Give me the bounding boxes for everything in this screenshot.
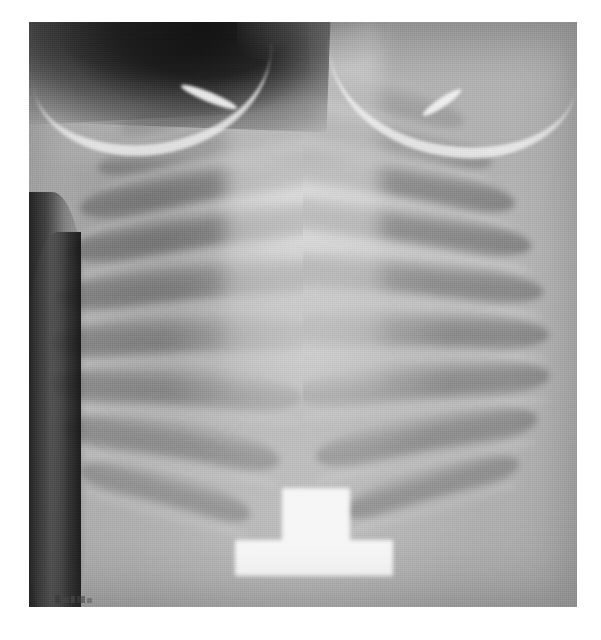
marker-stem xyxy=(282,488,350,544)
marker-bar xyxy=(235,540,393,576)
corner-mark xyxy=(62,597,69,603)
corner-mark xyxy=(77,596,85,603)
corner-mark xyxy=(55,595,60,603)
corner-mark xyxy=(71,596,75,603)
film-corner-marks xyxy=(55,594,101,603)
chest-xray-image xyxy=(29,22,577,607)
corner-mark xyxy=(87,598,92,603)
radiopaque-marker xyxy=(235,488,393,576)
radiograph-page xyxy=(0,0,601,640)
